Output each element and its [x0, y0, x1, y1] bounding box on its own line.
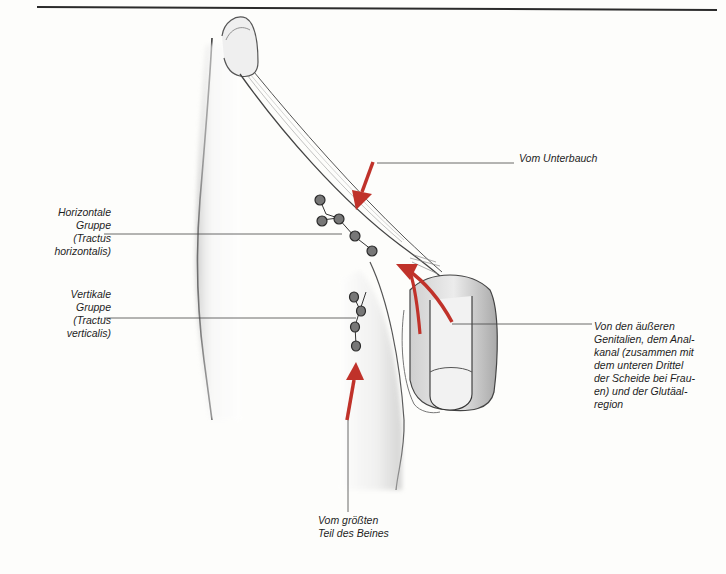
inguinal-ligament: [240, 72, 442, 276]
thigh-outline: [196, 38, 240, 420]
anatomical-illustration: [0, 0, 726, 574]
horizontal-node-group: [315, 195, 377, 256]
label-horizontal-group: Horizontale Gruppe (Tractus horizontalis…: [20, 206, 111, 258]
label-vertical-group: Vertikale Gruppe (Tractus verticalis): [20, 288, 111, 340]
label-from-lower-abdomen: Vom Unterbauch: [519, 152, 597, 165]
label-from-leg: Vom größten Teil des Beines: [318, 514, 389, 540]
iliac-spine: [222, 17, 258, 77]
label-from-genitals: Von den äußeren Genitalien, dem Anal- ka…: [594, 320, 724, 411]
figure-page: Horizontale Gruppe (Tractus horizontalis…: [0, 0, 726, 574]
